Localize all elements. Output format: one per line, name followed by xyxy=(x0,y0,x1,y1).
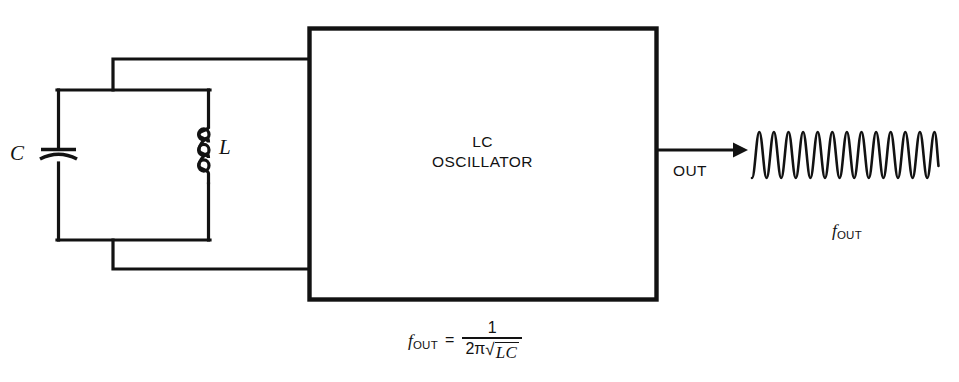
top-connection-wire xyxy=(113,59,309,90)
inductor-label: L xyxy=(219,136,231,158)
output-arrow xyxy=(657,143,748,158)
formula-lhs-subscript: OUT xyxy=(413,338,438,350)
bottom-connection-wire xyxy=(113,240,309,269)
formula-denominator-prefix: 2π xyxy=(465,341,485,357)
lc-oscillator-diagram: C L LC OSCILLATOR OUT fOUT fOUT = 1 2π√L… xyxy=(0,0,959,382)
lc-tank-circuit xyxy=(40,90,210,240)
block-title: LC OSCILLATOR xyxy=(308,132,657,173)
waveform-trace xyxy=(752,132,939,178)
output-arrow-head xyxy=(733,143,748,158)
formula-fraction: 1 2π√LC xyxy=(462,320,522,361)
capacitor-label: C xyxy=(10,142,24,164)
formula-numerator: 1 xyxy=(482,320,503,337)
capacitor-plate-curved xyxy=(40,154,77,159)
waveform-freq-subscript: OUT xyxy=(837,229,862,241)
frequency-formula: fOUT = 1 2π√LC xyxy=(408,320,522,361)
formula-radicand: LC xyxy=(495,342,519,361)
radical-sign-icon: √ xyxy=(485,341,494,358)
block-title-line1: LC xyxy=(308,132,657,152)
output-label: OUT xyxy=(673,163,707,179)
capacitor-icon xyxy=(40,150,77,160)
block-title-line2: OSCILLATOR xyxy=(308,152,657,172)
formula-denominator: 2π√LC xyxy=(462,339,522,361)
formula-equals-sign: = xyxy=(445,331,462,349)
waveform-frequency-label: fOUT xyxy=(832,221,862,241)
formula-lhs: fOUT xyxy=(408,330,445,351)
inductor-icon xyxy=(199,127,209,184)
output-waveform xyxy=(752,132,939,178)
